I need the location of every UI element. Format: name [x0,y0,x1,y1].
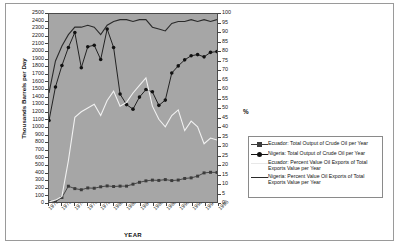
series-marker-1 [144,88,148,92]
legend-marker-ecuador-percent [251,160,268,167]
secondary-y-axis-tick-mark [218,99,221,100]
y-axis-tick-label: 1000 [18,124,44,129]
y-axis-tick-label: 2500 [18,10,44,15]
series-marker-0 [190,176,193,179]
y-axis-tick-label: 1100 [18,117,44,122]
series-marker-1 [209,51,213,55]
y-axis-tick-label: 1800 [18,63,44,68]
y-axis-tick-label: 0 [18,200,44,205]
series-marker-1 [151,90,155,94]
series-marker-0 [144,179,147,182]
y-axis-tick-label: 600 [18,155,44,160]
series-marker-0 [67,185,70,188]
x-axis-tick-mark [218,203,219,206]
legend-label: Ecuador: Percent Value Oil Exports of To… [268,159,380,172]
y-axis-tick-label: 200 [18,185,44,190]
secondary-y-axis-tick-mark [218,156,221,157]
series-marker-0 [164,178,167,181]
series-marker-1 [183,58,187,62]
y-axis-tick-label: 1200 [18,109,44,114]
y-axis-tick-label: 700 [18,147,44,152]
y-axis-tick-label: 2400 [18,18,44,23]
secondary-y-axis-tick-mark [218,51,221,52]
secondary-y-axis-tick-mark [218,165,221,166]
secondary-y-axis-tick-mark [218,32,221,33]
secondary-y-axis-tick-mark [218,80,221,81]
series-marker-1 [54,85,58,89]
series-marker-0 [86,186,89,189]
series-marker-1 [60,64,64,68]
series-marker-1 [215,50,217,54]
series-marker-1 [164,98,168,102]
legend-item: Ecuador: Percent Value Oil Exports of To… [251,159,380,172]
series-marker-1 [196,53,200,57]
series-marker-0 [80,188,83,191]
secondary-y-axis-tick-label: 35 [222,134,240,139]
secondary-y-axis-tick-label: 75 [222,58,240,63]
secondary-y-axis-tick-label: 95 [222,20,240,25]
x-axis-tick-mark [74,203,75,206]
series-marker-1 [176,64,180,68]
series-marker-1 [99,58,103,62]
series-marker-1 [189,54,193,58]
x-axis-tick-mark [113,203,114,206]
secondary-y-axis-tick-label: 80 [222,48,240,53]
secondary-y-axis-tick-mark [218,127,221,128]
secondary-y-axis-tick-label: 5 [222,191,240,196]
y-axis-tick-label: 900 [18,132,44,137]
y-axis-tick-label: 800 [18,139,44,144]
y-axis-tick-label: 1300 [18,101,44,106]
series-marker-1 [112,46,116,50]
series-marker-1 [67,46,71,50]
series-marker-0 [177,179,180,182]
secondary-y-axis-tick-mark [218,194,221,195]
secondary-y-axis-tick-mark [218,146,221,147]
secondary-y-axis-tick-mark [218,184,221,185]
x-axis-tick-mark [179,203,180,206]
x-axis-tick-mark [140,203,141,206]
series-marker-0 [203,171,206,174]
secondary-y-axis-tick-label: 50 [222,105,240,110]
series-marker-0 [216,171,217,174]
series-marker-0 [106,184,109,187]
y-axis-tick-label: 1600 [18,79,44,84]
series-marker-0 [138,181,141,184]
legend-label: Nigeria: Percent Value Oil Exports of To… [268,173,380,186]
secondary-y-axis-tick-label: 10 [222,181,240,186]
x-axis-tick-mark [192,203,193,206]
series-marker-0 [119,185,122,188]
secondary-y-axis-tick-label: 45 [222,115,240,120]
y-axis-tick-label: 1700 [18,71,44,76]
y-axis-tick-label: 2300 [18,25,44,30]
x-axis-tick-mark [48,203,49,206]
series-marker-1 [157,104,161,108]
series-marker-0 [196,175,199,178]
chart-container: Thousands Barrels per Day % YEAR 0100200… [0,0,400,247]
secondary-y-axis-title: % [243,108,249,115]
secondary-y-axis-tick-label: 90 [222,29,240,34]
legend-item: Ecuador: Total Output of Crude Oil per Y… [251,140,380,148]
series-marker-1 [131,107,135,111]
legend-label: Nigeria: Total Output of Crude Oil per Y… [268,150,365,156]
x-axis-tick-mark [87,203,88,206]
secondary-y-axis-tick-label: 55 [222,96,240,101]
series-marker-1 [118,92,122,96]
legend-label: Ecuador: Total Output of Crude Oil per Y… [268,140,368,146]
secondary-y-axis-tick-mark [218,137,221,138]
secondary-y-axis-tick-label: 65 [222,77,240,82]
series-marker-0 [93,187,96,190]
secondary-y-axis-tick-mark [218,70,221,71]
secondary-y-axis-tick-label: 40 [222,124,240,129]
y-axis-tick-label: 500 [18,162,44,167]
series-marker-0 [209,171,212,174]
series-marker-1 [73,31,77,35]
series-marker-0 [183,177,186,180]
series-marker-1 [138,95,142,99]
series-marker-1 [80,66,84,70]
series-marker-1 [86,45,90,49]
chart-legend: Ecuador: Total Output of Crude Oil per Y… [248,136,383,198]
series-marker-1 [49,119,51,123]
secondary-y-axis-tick-label: 20 [222,162,240,167]
legend-item: Nigeria: Total Output of Crude Oil per Y… [251,150,380,158]
secondary-y-axis-tick-label: 30 [222,143,240,148]
